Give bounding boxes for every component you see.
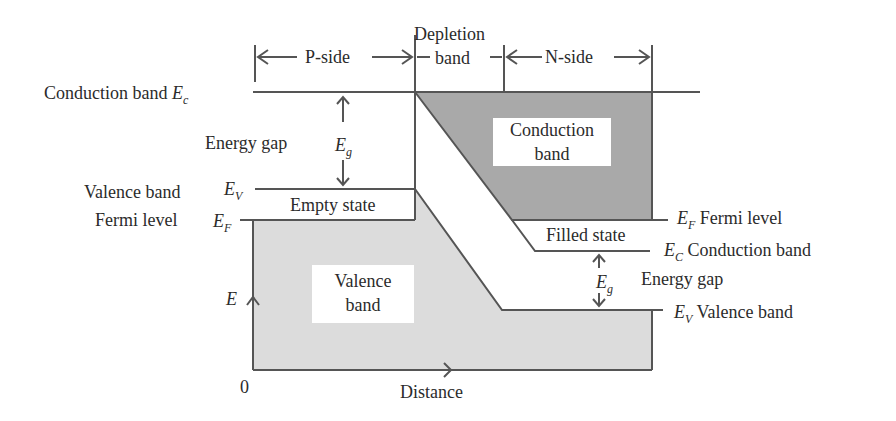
left-conduction-band-label: Conduction band Ec	[44, 84, 188, 102]
origin-label: 0	[240, 378, 249, 396]
valence-band-box: Valence band	[312, 265, 414, 323]
conduction-band-box: Conduction band	[493, 118, 611, 166]
right-energy-gap-label: Energy gap	[641, 270, 723, 288]
n-side-label: N-side	[545, 48, 593, 66]
distance-axis-label: Distance	[400, 383, 463, 401]
left-ef-symbol: EF	[213, 212, 231, 230]
depletion-label-line1: Depletion	[414, 25, 485, 43]
empty-state-label: Empty state	[290, 196, 375, 214]
depletion-label-line2: band	[435, 49, 470, 67]
p-side-label: P-side	[305, 48, 350, 66]
left-ev-symbol: EV	[224, 180, 242, 198]
right-eg-symbol: Eg	[596, 273, 613, 291]
energy-axis-label: E	[226, 290, 237, 308]
filled-state-label: Filled state	[546, 226, 626, 244]
left-fermi-level-label: Fermi level	[95, 211, 177, 229]
left-valence-band-label: Valence band	[84, 183, 180, 201]
right-conduction-band-label: EC Conduction band	[664, 241, 811, 259]
left-energy-gap-label: Energy gap	[205, 134, 287, 152]
left-eg-symbol: Eg	[335, 136, 352, 154]
right-fermi-level-label: EF Fermi level	[677, 209, 782, 227]
right-valence-band-label: EV Valence band	[674, 303, 793, 321]
